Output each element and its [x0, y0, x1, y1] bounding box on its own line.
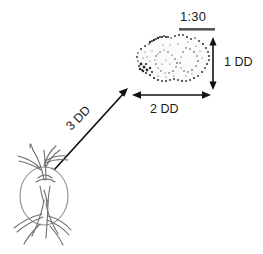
scale-underline: [179, 28, 215, 31]
optic-disc: [14, 144, 71, 245]
diagonal-distance-arrow: [48, 88, 128, 176]
lesion-width-label: 2 DD: [150, 103, 178, 116]
vertical-dimension-arrow: [209, 37, 216, 90]
retinal-lesion-measurement-figure: 1:30 1 DD 2 DD 3 DD: [0, 0, 263, 254]
clock-position-label: 1:30: [180, 10, 206, 23]
figure-canvas: [0, 0, 263, 254]
lesion-height-label: 1 DD: [224, 56, 252, 69]
retinal-lesion: [135, 33, 211, 83]
horizontal-dimension-arrow: [132, 91, 211, 98]
